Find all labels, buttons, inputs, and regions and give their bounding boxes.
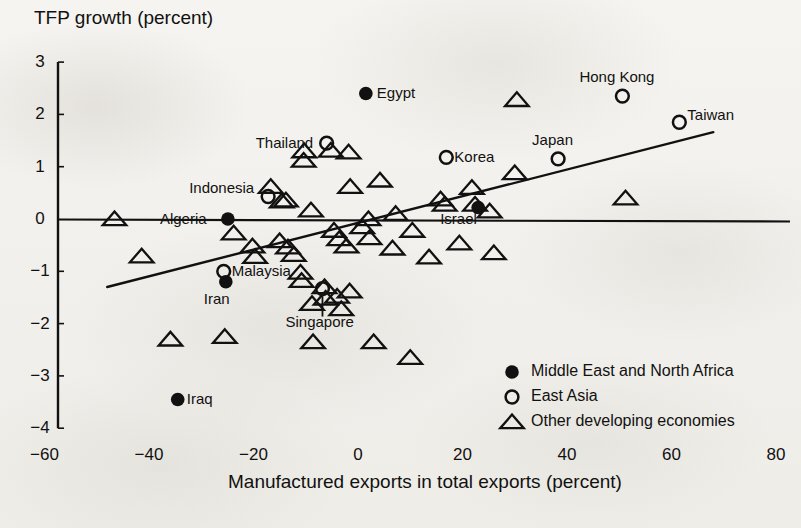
point-label-indonesia: Indonesia [189, 179, 254, 196]
data-point-triangle [130, 249, 154, 263]
point-label-egypt: Egypt [377, 84, 415, 101]
point-label-iraq: Iraq [187, 390, 213, 407]
data-point-filled-circle [505, 365, 519, 379]
data-point-triangle [222, 226, 246, 240]
legend-marker-filled-circle [505, 365, 519, 379]
data-point-filled-circle [359, 87, 373, 101]
legend-label-2: Other developing economies [531, 412, 735, 430]
data-point-triangle [614, 191, 638, 205]
data-point-open-circle [506, 391, 519, 404]
point-label-hong-kong: Hong Kong [579, 68, 654, 85]
data-point-triangle [213, 329, 237, 343]
data-point-triangle [417, 250, 441, 264]
y-tick-label: 0 [35, 209, 44, 229]
data-point-triangle [503, 166, 527, 180]
point-label-malaysia: Malaysia [232, 262, 291, 279]
legend-marker-open-triangle [500, 415, 524, 429]
data-point-triangle [289, 265, 313, 279]
point-label-korea: Korea [454, 148, 494, 165]
x-tick-label: 80 [767, 445, 786, 465]
data-point-open-circle [552, 152, 565, 165]
data-point-triangle [368, 173, 392, 187]
data-point-triangle [103, 212, 127, 226]
data-point-triangle [398, 350, 422, 364]
x-tick-label: −40 [135, 445, 164, 465]
data-point-triangle [299, 203, 323, 217]
y-tick-label: 3 [35, 52, 44, 72]
y-axis-title: TFP growth (percent) [34, 7, 213, 29]
x-tick-label: −20 [239, 445, 268, 465]
data-point-triangle [381, 241, 405, 255]
data-point-triangle [482, 246, 506, 260]
y-tick-label: −3 [30, 366, 49, 386]
x-tick-label: 20 [453, 445, 472, 465]
scatter-plot-figure: TFP growth (percent) Manufactured export… [0, 0, 801, 528]
legend-label-1: East Asia [531, 387, 598, 405]
x-tick-label: 60 [662, 445, 681, 465]
point-label-iran: Iran [204, 290, 230, 307]
x-tick-label: 0 [353, 445, 362, 465]
x-tick-label: 40 [558, 445, 577, 465]
data-point-open-circle [673, 116, 686, 129]
data-point-open-circle [616, 90, 629, 103]
point-label-israel: Israel [440, 210, 477, 227]
y-tick-label: −1 [30, 261, 49, 281]
point-label-singapore: Singapore [285, 313, 353, 330]
data-points-group [103, 87, 686, 407]
y-tick-label: 2 [35, 104, 44, 124]
point-label-thailand: Thailand [256, 134, 314, 151]
y-tick-label: 1 [35, 157, 44, 177]
data-point-triangle [362, 334, 386, 348]
x-axis-title: Manufactured exports in total exports (p… [228, 471, 622, 493]
data-point-triangle [401, 223, 425, 237]
legend-label-0: Middle East and North Africa [531, 362, 734, 380]
data-point-triangle [338, 179, 362, 193]
data-point-triangle [159, 332, 183, 346]
data-point-triangle [301, 334, 325, 348]
data-point-filled-circle [171, 393, 185, 407]
data-point-open-circle [440, 151, 453, 164]
y-tick-label: −2 [30, 314, 49, 334]
data-point-triangle [500, 415, 524, 429]
data-point-filled-circle [221, 212, 235, 226]
point-label-taiwan: Taiwan [687, 106, 734, 123]
point-label-japan: Japan [532, 131, 573, 148]
y-tick-label: −4 [30, 418, 49, 438]
legend-marker-open-circle [506, 391, 519, 404]
point-label-algeria: Algeria [160, 210, 207, 227]
data-point-triangle [448, 236, 472, 250]
x-tick-label: −60 [30, 445, 59, 465]
data-point-triangle [505, 92, 529, 106]
